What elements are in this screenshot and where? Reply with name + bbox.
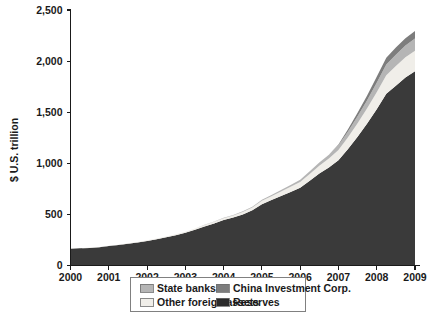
x-tick-label: 2008 [365,271,389,283]
legend-label: China Investment Corp. [233,282,351,294]
x-tick-label: 2000 [59,271,83,283]
y-tick-label: 0 [57,259,63,271]
legend-label: State banks [157,282,216,294]
y-axis-title: $ U.S. trillion [8,118,20,182]
y-tick-label: 1,000 [36,157,62,169]
legend-swatch [140,284,153,292]
x-tick-label: 2009 [403,271,427,283]
x-tick-label: 2007 [327,271,351,283]
x-tick-label: 2001 [97,271,121,283]
legend-swatch [140,298,153,306]
y-tick-label: 2,000 [36,55,62,67]
legend-swatch [216,284,229,292]
stacked-area-chart: 05001,0001,5002,0002,500 200020012002200… [0,0,430,320]
y-tick-label: 500 [45,208,63,220]
legend-label: Reserves [233,296,280,308]
y-tick-label: 2,500 [36,4,62,16]
y-tick-label: 1,500 [36,106,62,118]
legend-swatch [216,298,229,306]
